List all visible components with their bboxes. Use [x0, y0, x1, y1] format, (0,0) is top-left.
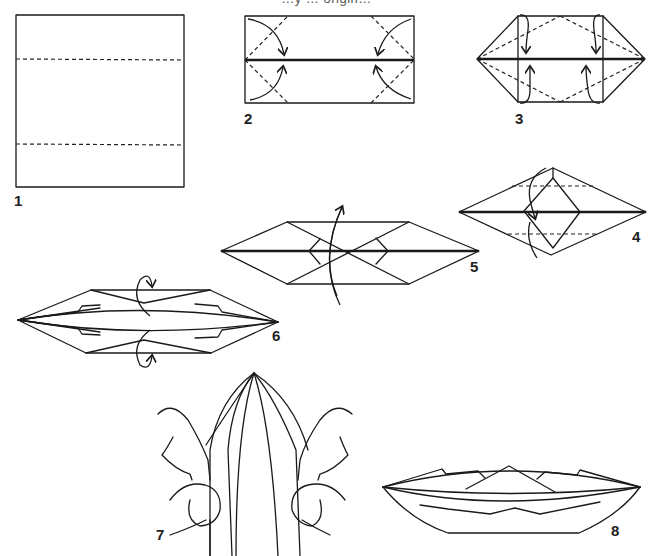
- step-2: 2: [244, 16, 414, 127]
- step-7: 7: [156, 373, 352, 556]
- step-label-8: 8: [611, 522, 619, 539]
- step-label-1: 1: [14, 192, 22, 209]
- step-label-6: 6: [272, 327, 280, 344]
- step-1: 1: [14, 15, 184, 209]
- step-label-4: 4: [632, 228, 641, 245]
- step-6: 6: [18, 276, 280, 367]
- step-label-2: 2: [244, 110, 252, 127]
- step-5: 5: [221, 207, 479, 305]
- step-label-3: 3: [515, 110, 523, 127]
- step-3: 3: [477, 15, 645, 127]
- step-8: 8: [383, 466, 640, 539]
- origami-diagram: 1 2 3 4: [0, 0, 653, 556]
- step-label-5: 5: [470, 258, 478, 275]
- step-4: 4: [459, 168, 646, 258]
- step-label-7: 7: [156, 526, 164, 543]
